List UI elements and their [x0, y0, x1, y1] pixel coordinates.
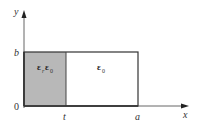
svg-text:0: 0: [50, 68, 53, 74]
dielectric-region: [24, 52, 66, 106]
svg-text:0: 0: [102, 68, 105, 74]
svg-text:ε: ε: [97, 62, 101, 72]
x-axis-label: x: [182, 109, 188, 120]
tick-label-t: t: [63, 111, 66, 122]
x-axis-arrow-icon: [181, 104, 189, 109]
svg-text:ε: ε: [37, 62, 41, 72]
tick-label-a: a: [135, 111, 140, 122]
origin-label: 0: [14, 101, 19, 112]
tick-label-b: b: [14, 47, 19, 58]
y-axis-arrow-icon: [22, 10, 27, 18]
svg-text:ε: ε: [45, 62, 49, 72]
y-axis-label: y: [13, 6, 19, 17]
diagram-canvas: y b 0 t a x ε r ε 0 ε 0: [0, 0, 197, 129]
free-space-permittivity-label: ε 0: [97, 62, 105, 74]
